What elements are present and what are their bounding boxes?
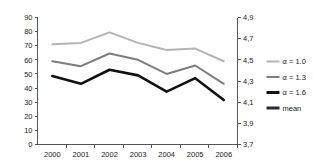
legend-label-2: α = 1.6 xyxy=(283,88,306,97)
y-axis-left-tick-label: 20 xyxy=(24,112,32,121)
x-axis-tick-label: 2002 xyxy=(101,150,118,159)
x-axis-tick-label: 2004 xyxy=(158,150,175,159)
y-axis-left-tick-label: 60 xyxy=(24,56,32,65)
y-axis-left-tick-label: 90 xyxy=(24,13,32,22)
x-axis-tick-label: 2000 xyxy=(44,150,61,159)
y-axis-right-tick-label: 4,3 xyxy=(243,77,253,86)
y-axis-right-tick-label: 3,9 xyxy=(243,119,253,128)
x-axis-tick-label: 2001 xyxy=(73,150,90,159)
legend-label-1: α = 1.3 xyxy=(283,73,306,82)
y-axis-right-tick-label: 4,9 xyxy=(243,13,253,22)
chart-canvas: 90807060504030201004,94,74,54,34,13,93,7… xyxy=(0,0,319,165)
y-axis-left-tick-label: 70 xyxy=(24,41,32,50)
line-chart: 90807060504030201004,94,74,54,34,13,93,7… xyxy=(0,0,319,165)
y-axis-left-tick-label: 10 xyxy=(24,126,32,135)
series-line-2 xyxy=(52,70,223,100)
y-axis-right-tick-label: 3,7 xyxy=(243,140,253,149)
x-axis-tick-label: 2006 xyxy=(215,150,232,159)
series-line-0 xyxy=(52,32,223,61)
y-axis-left-tick-label: 50 xyxy=(24,70,32,79)
y-axis-left-tick-label: 80 xyxy=(24,27,32,36)
legend-label-0: α = 1.0 xyxy=(283,57,306,66)
y-axis-right-tick-label: 4,7 xyxy=(243,34,253,43)
y-axis-right-tick-label: 4,5 xyxy=(243,56,253,65)
x-axis-tick-label: 2003 xyxy=(130,150,147,159)
y-axis-left-tick-label: 40 xyxy=(24,84,32,93)
x-axis-tick-label: 2005 xyxy=(187,150,204,159)
y-axis-right-tick-label: 4,1 xyxy=(243,98,253,107)
y-axis-left-tick-label: 0 xyxy=(28,140,32,149)
legend-label-3: mean xyxy=(283,104,302,113)
y-axis-left-tick-label: 30 xyxy=(24,98,32,107)
